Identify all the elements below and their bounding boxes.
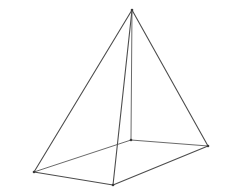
pyramid-vertices	[33, 9, 210, 187]
edge-apex-right	[132, 10, 208, 146]
vertex-base-back	[130, 139, 133, 142]
edge-base-front-right	[113, 146, 208, 185]
edge-base-right-back	[131, 140, 208, 146]
vertex-base-left	[33, 171, 36, 174]
vertex-base-right	[207, 145, 210, 148]
figure-canvas	[0, 0, 238, 194]
edge-base-left-front	[34, 172, 113, 185]
pyramid-svg	[0, 0, 238, 194]
pyramid-hidden-edges	[34, 10, 208, 172]
vertex-apex	[131, 9, 134, 12]
vertex-base-front	[112, 184, 115, 187]
pyramid-visible-edges	[34, 10, 208, 185]
edge-apex-back	[131, 10, 132, 140]
